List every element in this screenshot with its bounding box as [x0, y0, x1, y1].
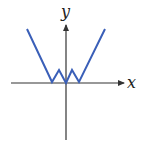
function-graph: x y [0, 0, 148, 148]
x-axis-label: x [127, 73, 136, 92]
y-axis-label: y [60, 2, 71, 21]
